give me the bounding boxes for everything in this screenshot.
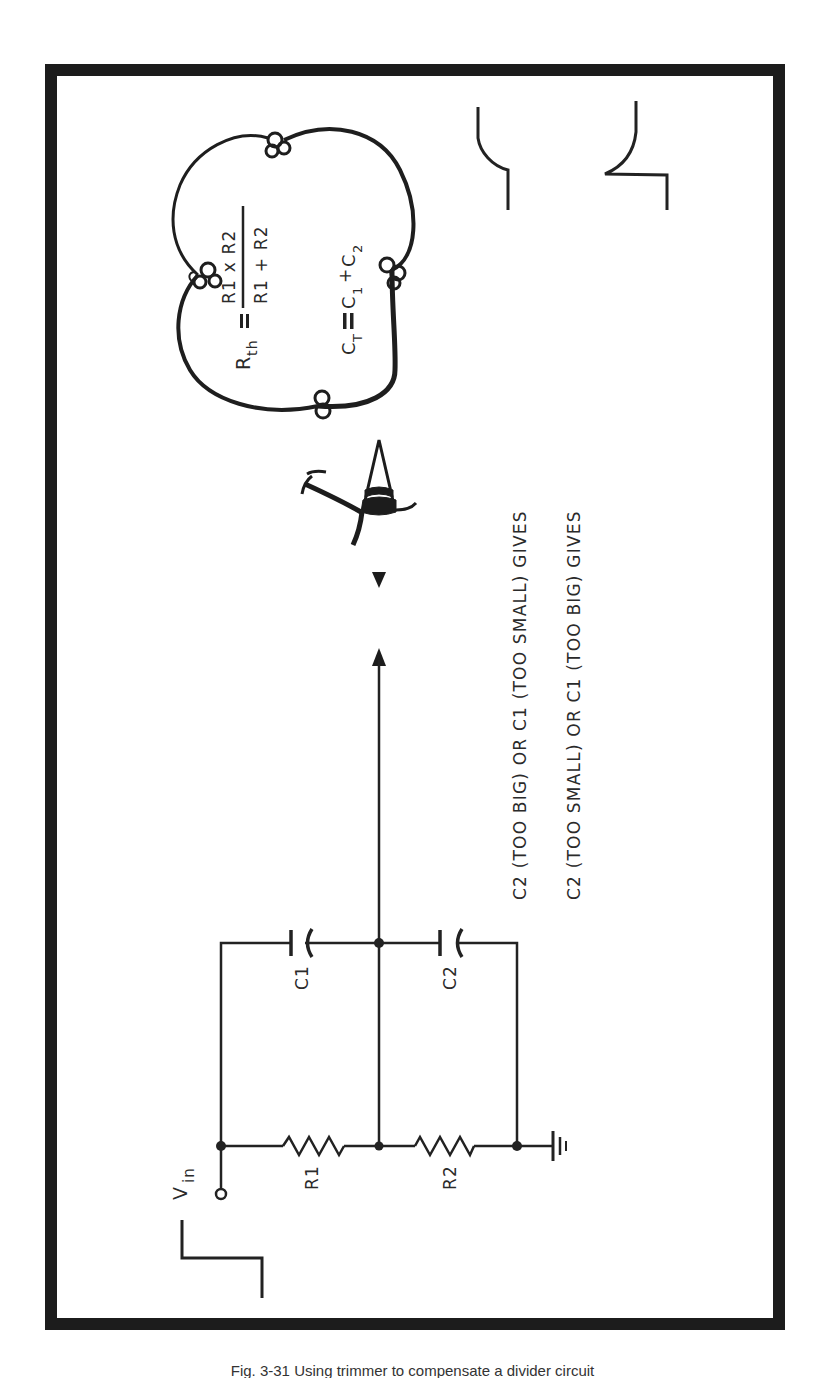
node-dot — [375, 1142, 384, 1151]
ct-c1: C — [338, 295, 359, 309]
statement-undercomp: C2 (TOO BIG) OR C1 (TOO SMALL) GIVES — [510, 510, 530, 900]
figure-caption: Fig. 3-31 Using trimmer to compensate a … — [0, 1362, 825, 1378]
rth-formula: R th R1 x R2 R1 + R2 — [219, 206, 271, 370]
node-dot — [374, 938, 384, 948]
r2-label: R2 — [440, 1165, 460, 1190]
c1-label: C1 — [292, 965, 312, 990]
ct-plus: + — [335, 268, 355, 283]
thought-cloud — [173, 129, 413, 418]
screwdriver-trimmer-icon — [302, 440, 416, 545]
vin-symbol: V — [169, 1186, 191, 1200]
waveform-overshoot — [478, 107, 508, 210]
capacitor-branch-wire — [221, 943, 291, 1146]
statement-overcomp: C2 (TOO SMALL) OR C1 (TOO BIG) GIVES — [564, 510, 584, 900]
input-step-waveform — [182, 1220, 262, 1298]
r1-label: R1 — [302, 1165, 322, 1190]
node-dot — [512, 1141, 522, 1151]
down-arrow-icon — [372, 572, 386, 588]
cloud-knot-top — [266, 133, 290, 157]
rth-denominator: R1 + R2 — [251, 225, 271, 304]
rth-subscript: th — [244, 339, 260, 356]
input-terminal — [216, 1189, 226, 1199]
ct-c2-sub: 2 — [350, 244, 365, 253]
node-dot — [216, 1141, 226, 1151]
ct-c1-sub: 1 — [350, 286, 365, 295]
ct-formula: C T C 1 + C 2 — [335, 244, 365, 355]
vin-subscript: in — [180, 1167, 198, 1183]
figure-border — [51, 70, 779, 1324]
rth-symbol: R — [232, 356, 254, 370]
vin-label: V in — [169, 1167, 198, 1200]
compensated-divider-figure: R th R1 x R2 R1 + R2 C T C 1 + C 2 C2 (T… — [0, 0, 825, 1378]
waveform-rounded — [605, 101, 667, 210]
cloud-knot-left — [189, 263, 221, 288]
r2-zigzag — [415, 1137, 474, 1155]
r1-zigzag — [283, 1137, 344, 1155]
equals-sign — [240, 314, 243, 328]
ct-symbol: C — [338, 341, 359, 355]
ct-c2: C — [338, 253, 359, 267]
c2-label: C2 — [440, 965, 460, 990]
rth-numerator: R1 x R2 — [219, 229, 239, 304]
cloud-knot-bottom — [315, 391, 330, 418]
ct-subscript: T — [350, 333, 365, 343]
ct-equals-sign — [343, 313, 347, 329]
